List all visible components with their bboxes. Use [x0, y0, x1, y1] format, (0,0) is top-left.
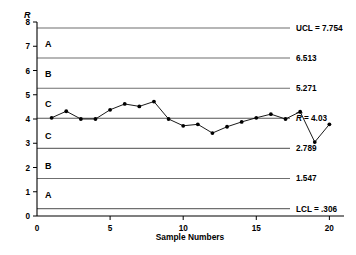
data-point-3: [79, 117, 83, 121]
data-point-8: [152, 100, 156, 104]
data-point-7: [137, 104, 141, 108]
chart-canvas: 012345678 05101520 ABCCBA UCL = 7.7546.5…: [0, 0, 356, 255]
data-point-5: [108, 108, 112, 112]
data-point-6: [123, 102, 127, 106]
x-axis-title: Sample Numbers: [156, 232, 225, 242]
data-point-2: [64, 109, 68, 113]
y-tick-label-2: 2: [25, 164, 30, 173]
limit-label-z1l: 2.789: [296, 144, 317, 153]
data-point-19: [313, 140, 317, 144]
data-point-11: [196, 122, 200, 126]
y-tick-label-7: 7: [25, 42, 30, 51]
data-point-14: [240, 120, 244, 124]
limit-label-z1u: 5.271: [296, 84, 317, 93]
r-control-chart: 012345678 05101520 ABCCBA UCL = 7.7546.5…: [0, 0, 356, 255]
data-point-4: [94, 117, 98, 121]
data-point-17: [284, 117, 288, 121]
center-line-symbol: R: [296, 114, 302, 123]
data-point-1: [50, 116, 54, 120]
y-tick-label-6: 6: [25, 67, 30, 76]
data-point-16: [269, 112, 273, 116]
zone-b-upper: B: [45, 69, 52, 79]
zone-c-lower: C: [45, 131, 52, 141]
zone-c-upper: C: [45, 99, 52, 109]
y-tick-label-4: 4: [25, 115, 30, 124]
data-point-9: [167, 117, 171, 121]
y-tick-label-3: 3: [25, 139, 30, 148]
y-tick-label-5: 5: [25, 91, 30, 100]
data-point-15: [254, 116, 258, 120]
plot-background: [0, 0, 356, 255]
data-point-12: [211, 131, 215, 135]
data-point-13: [225, 125, 229, 129]
x-tick-label-5: 5: [108, 224, 113, 233]
limit-label-z2u: 6.513: [296, 54, 317, 63]
data-point-20: [327, 122, 331, 126]
x-tick-label-20: 20: [325, 224, 335, 233]
y-tick-label-1: 1: [25, 188, 30, 197]
zone-a-upper: A: [45, 39, 52, 49]
limit-label-z2l: 1.547: [296, 174, 317, 183]
y-tick-label-0: 0: [25, 212, 30, 221]
zone-b-lower: B: [45, 161, 52, 171]
x-tick-label-0: 0: [35, 224, 40, 233]
limit-label-lcl: LCL = .306: [296, 205, 337, 214]
data-point-10: [181, 124, 185, 128]
x-tick-label-15: 15: [252, 224, 262, 233]
zone-a-lower: A: [45, 190, 52, 200]
limit-label-cl: = 4.03: [304, 114, 327, 123]
y-axis-title: R: [24, 10, 31, 20]
limit-label-ucl: UCL = 7.754: [296, 24, 343, 33]
